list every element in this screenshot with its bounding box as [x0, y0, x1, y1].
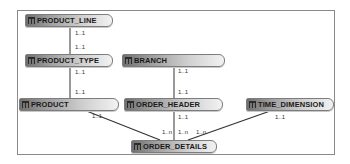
table-icon — [127, 101, 134, 108]
entity-product-type[interactable]: PRODUCT_TYPE — [25, 54, 113, 67]
entity-label: PRODUCT — [31, 99, 69, 110]
entity-label: TIME_DIMENSION — [258, 99, 324, 110]
cardinality-label: 1..n — [162, 129, 172, 136]
cardinality-label: 1..1 — [178, 68, 188, 75]
entity-label: BRANCH — [134, 55, 167, 66]
entity-product[interactable]: PRODUCT — [19, 98, 119, 111]
entity-time-dimension[interactable]: TIME_DIMENSION — [246, 98, 334, 111]
entity-branch[interactable]: BRANCH — [122, 54, 225, 67]
cardinality-label: 1..n — [196, 129, 206, 136]
cardinality-label: 1..1 — [75, 89, 85, 96]
cardinality-label: 1..1 — [275, 114, 285, 121]
table-icon — [28, 57, 35, 64]
entity-order-details[interactable]: ORDER_DETAILS — [131, 140, 217, 153]
entity-label: PRODUCT_LINE — [37, 15, 97, 26]
table-icon — [28, 17, 35, 24]
table-icon — [125, 57, 132, 64]
table-icon — [134, 143, 141, 150]
diagram-canvas: PRODUCT_LINE PRODUCT_TYPE BRANCH PRODUCT… — [0, 0, 350, 164]
entity-product-line[interactable]: PRODUCT_LINE — [25, 14, 113, 27]
entity-label: ORDER_HEADER — [136, 99, 200, 110]
cardinality-label: 1..1 — [75, 69, 85, 76]
table-icon — [249, 101, 256, 108]
entity-label: ORDER_DETAILS — [143, 141, 207, 152]
cardinality-label: 1..n — [178, 129, 188, 136]
cardinality-label: 1..1 — [178, 114, 188, 121]
entity-label: PRODUCT_TYPE — [37, 55, 99, 66]
cardinality-label: 1..1 — [75, 44, 85, 51]
cardinality-label: 1..1 — [75, 30, 85, 37]
cardinality-label: 1..1 — [92, 113, 102, 120]
table-icon — [22, 101, 29, 108]
entity-order-header[interactable]: ORDER_HEADER — [124, 98, 223, 111]
cardinality-label: 1..1 — [178, 89, 188, 96]
